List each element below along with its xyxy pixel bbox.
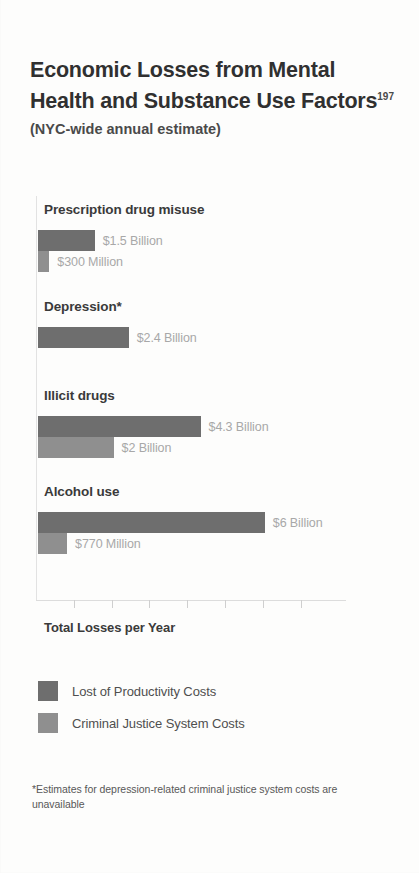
x-axis-tick: [301, 600, 302, 608]
bar-row: $300 Million: [38, 251, 419, 272]
bar-row: $6 Billion: [38, 512, 419, 533]
bar-value-label: $300 Million: [57, 255, 123, 269]
x-axis-tick: [149, 600, 150, 608]
bar-justice: [38, 437, 114, 458]
x-axis-tick: [263, 600, 264, 608]
x-axis-tick: [74, 600, 75, 608]
bar-group-label: Depression*: [44, 299, 122, 314]
bar-group-label: Alcohol use: [44, 484, 119, 499]
bar-group-label: Illicit drugs: [44, 388, 115, 403]
legend-item: Lost of Productivity Costs: [38, 681, 245, 701]
x-axis: [36, 600, 346, 610]
bar-row: $2 Billion: [38, 437, 419, 458]
chart-subtitle: (NYC-wide annual estimate): [30, 120, 395, 139]
bar-row: $1.5 Billion: [38, 230, 419, 251]
bar-value-label: $2.4 Billion: [137, 331, 197, 345]
chart-legend: Lost of Productivity CostsCriminal Justi…: [38, 681, 245, 745]
bar-productivity: [38, 416, 201, 437]
bar-row: $2.4 Billion: [38, 327, 419, 348]
bar-value-label: $2 Billion: [122, 441, 172, 455]
chart-title-footnote-marker: 197: [377, 91, 394, 102]
plot-area: Prescription drug misuse$1.5 Billion$300…: [0, 196, 419, 608]
y-axis-baseline: [36, 196, 37, 600]
x-axis-tick: [187, 600, 188, 608]
bar-value-label: $1.5 Billion: [103, 234, 163, 248]
x-axis-tick: [112, 600, 113, 608]
bar-value-label: $4.3 Billion: [209, 420, 269, 434]
legend-label: Lost of Productivity Costs: [72, 684, 216, 699]
legend-label: Criminal Justice System Costs: [72, 716, 245, 731]
legend-swatch-productivity: [38, 681, 58, 701]
x-axis-line: [36, 600, 346, 601]
x-axis-tick: [225, 600, 226, 608]
chart-footnote: *Estimates for depression-related crimin…: [32, 782, 382, 812]
x-axis-title: Total Losses per Year: [44, 620, 175, 635]
bar-value-label: $6 Billion: [273, 516, 323, 530]
bar-row: $770 Million: [38, 533, 419, 554]
bar-productivity: [38, 512, 265, 533]
legend-swatch-justice: [38, 713, 58, 733]
bar-value-label: $770 Million: [75, 537, 141, 551]
bar-justice: [38, 251, 49, 272]
economic-losses-bar-chart: Economic Losses from Mental Health and S…: [0, 0, 419, 873]
chart-title-text: Economic Losses from Mental Health and S…: [30, 58, 377, 113]
bar-justice: [38, 533, 67, 554]
bar-row: $4.3 Billion: [38, 416, 419, 437]
title-block: Economic Losses from Mental Health and S…: [30, 58, 395, 139]
bar-productivity: [38, 327, 129, 348]
bar-group-label: Prescription drug misuse: [44, 202, 204, 217]
bar-productivity: [38, 230, 95, 251]
chart-title: Economic Losses from Mental Health and S…: [30, 58, 395, 114]
legend-item: Criminal Justice System Costs: [38, 713, 245, 733]
